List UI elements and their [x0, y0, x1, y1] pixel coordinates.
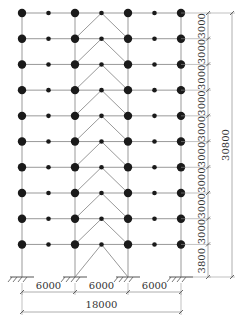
column-node — [124, 112, 132, 120]
support-hatch — [124, 277, 128, 282]
midspan-node — [46, 62, 51, 67]
column-node — [71, 163, 79, 171]
chevron-brace — [75, 167, 128, 193]
chevron-brace — [75, 64, 128, 90]
midspan-node — [99, 114, 104, 119]
midspan-node — [152, 242, 157, 247]
support-hatch — [114, 277, 118, 282]
chevron-brace — [75, 244, 128, 277]
story-height-label: 3000 — [196, 167, 207, 192]
story-height-labels: 3000300030003000300030003000300030003800 — [196, 13, 207, 273]
midspan-node — [46, 11, 51, 16]
midspan-node — [152, 216, 157, 221]
support-hatch — [18, 277, 22, 282]
story-height-label: 3000 — [196, 219, 207, 244]
story-height-label: 3000 — [196, 142, 207, 167]
story-height-label: 3800 — [196, 248, 207, 273]
column-node — [124, 9, 132, 17]
support-hatch — [76, 277, 80, 282]
midspan-node — [99, 242, 104, 247]
story-height-label: 3000 — [196, 116, 207, 141]
total-width-label: 18000 — [86, 299, 118, 310]
column-node — [18, 163, 26, 171]
midspan-node — [99, 11, 104, 16]
chevron-brace — [75, 13, 128, 39]
column-node — [18, 137, 26, 145]
column-node — [71, 9, 79, 17]
story-height-label: 3000 — [196, 65, 207, 90]
column-node — [18, 35, 26, 43]
midspan-node — [99, 216, 104, 221]
column-node — [124, 189, 132, 197]
column-node — [18, 189, 26, 197]
column-node — [124, 215, 132, 223]
story-height-label: 3000 — [196, 193, 207, 218]
chevron-brace — [75, 90, 128, 116]
support-hatch — [13, 277, 17, 282]
midspan-node — [46, 88, 51, 93]
midspan-node — [152, 88, 157, 93]
bay-width-label: 6000 — [36, 280, 61, 291]
column-node — [71, 60, 79, 68]
midspan-node — [152, 114, 157, 119]
column-node — [18, 112, 26, 120]
midspan-node — [99, 139, 104, 144]
story-height-label: 3000 — [196, 39, 207, 64]
support-hatch — [61, 277, 65, 282]
midspan-node — [46, 114, 51, 119]
story-height-label: 3000 — [196, 90, 207, 115]
column-node — [18, 60, 26, 68]
midspan-node — [46, 165, 51, 170]
bay-width-label: 6000 — [142, 280, 167, 291]
support-hatch — [182, 277, 186, 282]
column-node — [18, 240, 26, 248]
midspan-node — [46, 36, 51, 41]
support-hatch — [167, 277, 171, 282]
column-node — [18, 9, 26, 17]
support-hatch — [177, 277, 181, 282]
column-node — [71, 86, 79, 94]
midspan-node — [99, 191, 104, 196]
midspan-node — [152, 36, 157, 41]
chevron-brace — [75, 193, 128, 219]
chevron-brace — [75, 116, 128, 142]
column-node — [71, 189, 79, 197]
midspan-node — [46, 216, 51, 221]
support-hatch — [172, 277, 176, 282]
chevron-brace — [75, 142, 128, 168]
support-hatch — [119, 277, 123, 282]
support-hatch — [71, 277, 75, 282]
midspan-node — [152, 191, 157, 196]
column-node — [71, 35, 79, 43]
midspan-node — [99, 88, 104, 93]
chevron-brace — [75, 39, 128, 65]
frame-members — [22, 13, 181, 277]
column-node — [124, 163, 132, 171]
frame-nodes — [18, 9, 185, 249]
column-node — [124, 60, 132, 68]
chevron-brace — [75, 219, 128, 245]
midspan-node — [99, 62, 104, 67]
column-node — [71, 112, 79, 120]
midspan-node — [152, 139, 157, 144]
column-node — [71, 240, 79, 248]
column-node — [18, 86, 26, 94]
support-hatch — [129, 277, 133, 282]
support-hatch — [66, 277, 70, 282]
column-node — [71, 215, 79, 223]
support-hatch — [8, 277, 12, 282]
midspan-node — [152, 62, 157, 67]
column-node — [71, 137, 79, 145]
midspan-node — [152, 165, 157, 170]
support-hatch — [23, 277, 27, 282]
midspan-node — [152, 11, 157, 16]
total-height-label: 30800 — [220, 129, 231, 161]
story-height-label: 3000 — [196, 13, 207, 38]
column-node — [124, 137, 132, 145]
midspan-node — [46, 191, 51, 196]
column-node — [124, 240, 132, 248]
midspan-node — [99, 165, 104, 170]
midspan-node — [46, 139, 51, 144]
column-node — [124, 35, 132, 43]
midspan-node — [46, 242, 51, 247]
